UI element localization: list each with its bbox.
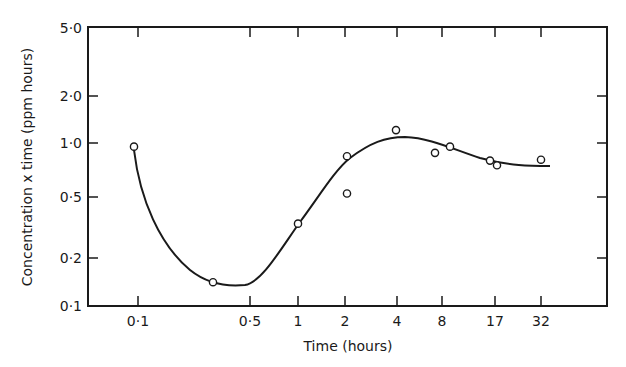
y-axis-ticks: 5·02·01·00·50·20·1 xyxy=(60,20,607,314)
x-axis-ticks: 0·10·512481732 xyxy=(127,27,550,329)
data-point xyxy=(130,143,137,150)
data-point xyxy=(537,156,544,163)
x-tick-label: 17 xyxy=(486,313,504,329)
data-point xyxy=(446,143,453,150)
x-tick-label: 1 xyxy=(294,313,303,329)
data-point xyxy=(486,157,493,164)
x-tick-label: 4 xyxy=(393,313,402,329)
chart-canvas: 0·10·512481732 5·02·01·00·50·20·1 Time (… xyxy=(0,0,626,367)
y-tick-label: 0·2 xyxy=(60,250,82,266)
x-tick-label: 8 xyxy=(438,313,447,329)
x-tick-label: 0·5 xyxy=(239,313,261,329)
y-axis-title: Concentration x time (ppm hours) xyxy=(19,48,35,286)
data-point xyxy=(392,126,399,133)
data-point xyxy=(343,190,350,197)
x-axis-title: Time (hours) xyxy=(303,338,393,354)
data-point xyxy=(343,153,350,160)
y-tick-label: 5·0 xyxy=(60,20,82,36)
data-point xyxy=(209,279,216,286)
data-points xyxy=(130,126,544,285)
y-tick-label: 2·0 xyxy=(60,88,82,104)
y-tick-label: 0·1 xyxy=(60,298,82,314)
x-tick-label: 2 xyxy=(341,313,350,329)
x-tick-label: 32 xyxy=(532,313,550,329)
data-point xyxy=(431,149,438,156)
y-tick-label: 0·5 xyxy=(60,189,82,205)
data-point xyxy=(294,220,301,227)
data-point xyxy=(493,162,500,169)
x-tick-label: 0·1 xyxy=(127,313,149,329)
y-tick-label: 1·0 xyxy=(60,135,82,151)
